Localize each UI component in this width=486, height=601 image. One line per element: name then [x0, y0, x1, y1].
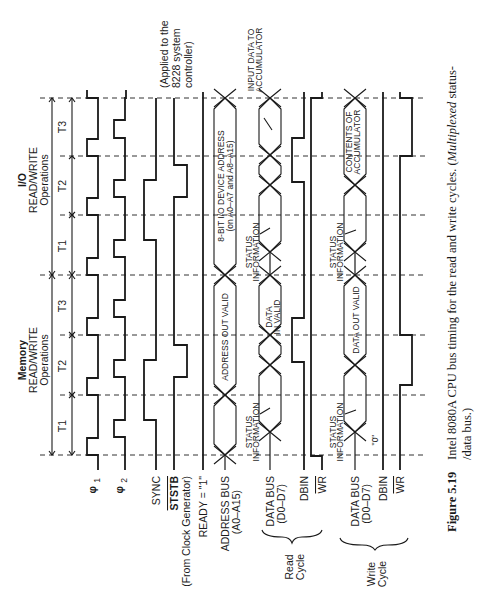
io-t2: T2 [56, 180, 68, 192]
read-cycle-brace: Read Cycle [262, 530, 322, 580]
write-wr-label: WR [394, 476, 406, 494]
read-cycle-sublabel: Cycle [294, 554, 306, 580]
ready-label: READY = "1" [197, 476, 209, 538]
memory-phase-label: Memory READ/WRITE Operations [16, 327, 50, 393]
io-t1: T1 [56, 240, 68, 252]
mem-t2: T2 [56, 360, 68, 372]
write-data-bus-range: (D0–D7) [360, 484, 372, 524]
ststb-waveform [174, 98, 187, 470]
phi1-waveform [87, 90, 98, 470]
sync-label: SYNC [150, 476, 162, 506]
phi2-waveform [114, 90, 126, 470]
phase-markers [49, 98, 75, 455]
data-in-valid-sublabel: IN VALID [272, 300, 282, 335]
write-cycle-sublabel: Cycle [376, 561, 388, 587]
caption-text-line2: /data bus.) [460, 408, 474, 460]
read-data-bus-range: (D0–D7) [275, 484, 287, 524]
write-status-sublabel-1: INFORMATION [335, 403, 345, 462]
read-status-sublabel-2: INFORMATION [251, 223, 261, 282]
ststb-label: STSTB [168, 476, 180, 511]
figure-number: Figure 5.19 [445, 472, 459, 532]
phi1-label: φ [86, 486, 98, 494]
read-dbin-label: DBIN [298, 476, 310, 501]
read-wr-label: WR [316, 476, 328, 494]
phi1-subscript: 1 [92, 478, 102, 483]
address-bus-range: (A0–A15) [230, 490, 242, 534]
phi2-subscript: 2 [119, 478, 129, 483]
sync-waveform [144, 98, 156, 470]
figure-caption: Figure 5.19 Intel 8080A CPU bus timing f… [445, 66, 474, 532]
data-out-valid-label: DATA OUT VALID [351, 286, 361, 353]
ststb-applied-label-2: 8228 system [170, 28, 182, 88]
memory-operations: Operations [38, 334, 50, 385]
write-wr-waveform [400, 92, 412, 470]
address-out-valid-label: ADDRESS OUT VALID [220, 293, 230, 381]
write-status-sublabel-2: INFORMATION [335, 223, 345, 282]
write-dbin-level: "0" [370, 435, 380, 446]
read-data-bus-waveform [259, 89, 281, 470]
ststb-applied-label-1: (Applied to the [158, 20, 170, 88]
io-operations: Operations [38, 154, 50, 205]
io-t3: T3 [56, 121, 68, 133]
read-wr-waveform [311, 92, 322, 470]
mem-t1: T1 [56, 420, 68, 432]
caption-text: Intel 8080A CPU bus timing for the read … [445, 66, 459, 460]
io-phase-label: I/O READ/WRITE Operations [16, 147, 50, 213]
ststb-source-label: (From Clock Generator) [180, 476, 192, 587]
ststb-applied-label-3: controller) [182, 41, 194, 88]
read-dbin-waveform [292, 92, 304, 470]
t-state-labels: T1 T2 T3 T1 T2 T3 [56, 121, 68, 432]
read-status-sublabel-1: INFORMATION [251, 403, 261, 462]
mem-t3: T3 [56, 300, 68, 312]
timing-diagram: Memory READ/WRITE Operations I/O READ/WR… [0, 0, 486, 601]
contents-acc-sublabel: ACCUMULATOR [352, 110, 362, 175]
write-cycle-brace: Write Cycle [340, 538, 408, 587]
write-dbin-label: DBIN [377, 476, 389, 501]
phi2-label: φ [113, 486, 125, 494]
input-to-acc-sublabel: ACCUMULATOR [254, 28, 264, 93]
io-address-sublabel: (on A0–A7 and A8–A15) [225, 140, 235, 231]
